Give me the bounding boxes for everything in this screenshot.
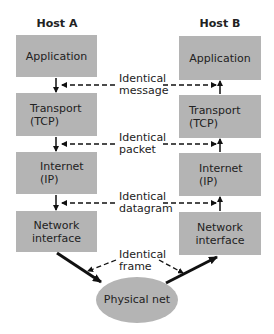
peer-dashed-arrows: [62, 85, 216, 273]
identical-message-label: Identical message: [119, 73, 168, 97]
connector-arrows: [0, 0, 274, 334]
identical-datagram-label: Identical datagram: [119, 191, 173, 215]
identical-packet-label: Identical packet: [119, 132, 166, 156]
identical-frame-label: Identical frame: [119, 249, 166, 273]
physical-net-label: Physical net: [96, 293, 178, 306]
